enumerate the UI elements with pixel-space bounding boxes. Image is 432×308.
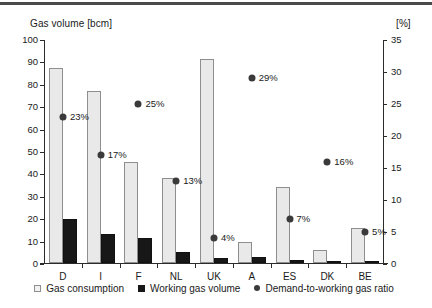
left-tick-label: 10 <box>27 237 38 247</box>
left-tick <box>40 174 44 175</box>
left-tick <box>40 85 44 86</box>
ratio-dot-nl <box>173 177 180 184</box>
bar-working-gas-volume-dk <box>327 261 341 263</box>
left-tick-label: 20 <box>27 214 38 224</box>
left-tick-label: 100 <box>22 35 38 45</box>
bar-gas-consumption-dk <box>313 250 327 263</box>
ratio-label-uk: 4% <box>221 233 235 243</box>
bar-gas-consumption-a <box>238 242 252 263</box>
legend-label: Demand-to-working gas ratio <box>265 283 393 294</box>
right-tick-label: 20 <box>391 131 402 141</box>
ratio-label-i: 17% <box>108 150 127 160</box>
light-square-icon <box>34 285 41 292</box>
right-tick-label: 30 <box>391 67 402 77</box>
right-tick-label: 35 <box>391 35 402 45</box>
left-tick <box>40 107 44 108</box>
ratio-label-d: 23% <box>70 112 89 122</box>
ratio-label-nl: 13% <box>183 176 202 186</box>
right-tick <box>383 40 387 41</box>
right-tick <box>383 72 387 73</box>
right-tick <box>383 264 387 265</box>
ratio-dot-i <box>97 152 104 159</box>
dot-icon <box>254 285 260 291</box>
category-separator-tick <box>233 263 234 268</box>
bar-gas-consumption-uk <box>200 59 214 263</box>
bar-working-gas-volume-f <box>138 238 152 263</box>
bar-gas-consumption-d <box>49 68 63 263</box>
category-separator-tick <box>82 263 83 268</box>
left-tick-label: 90 <box>27 57 38 67</box>
right-tick-label: 0 <box>391 259 396 269</box>
left-tick-label: 30 <box>27 192 38 202</box>
ratio-label-be: 5% <box>372 227 386 237</box>
left-axis-line <box>44 40 45 264</box>
ratio-dot-uk <box>211 235 218 242</box>
legend-item-0[interactable]: Gas consumption <box>34 283 124 294</box>
ratio-dot-es <box>286 216 293 223</box>
left-tick <box>40 197 44 198</box>
bar-working-gas-volume-i <box>101 234 115 263</box>
right-tick <box>383 104 387 105</box>
right-tick <box>383 136 387 137</box>
category-separator-tick <box>195 263 196 268</box>
bar-gas-consumption-f <box>124 162 138 263</box>
left-tick <box>40 264 44 265</box>
legend-item-2[interactable]: Demand-to-working gas ratio <box>254 283 393 294</box>
category-separator-tick <box>271 263 272 268</box>
ratio-dot-a <box>248 75 255 82</box>
left-tick-label: 50 <box>27 147 38 157</box>
bar-working-gas-volume-uk <box>214 258 228 263</box>
bar-working-gas-volume-nl <box>176 252 190 263</box>
left-tick <box>40 62 44 63</box>
dark-square-icon <box>138 285 145 292</box>
left-tick <box>40 130 44 131</box>
left-tick-label: 40 <box>27 169 38 179</box>
left-tick-label: 70 <box>27 102 38 112</box>
legend-label: Working gas volume <box>150 283 240 294</box>
right-tick <box>383 168 387 169</box>
right-tick-label: 25 <box>391 99 402 109</box>
bar-gas-consumption-es <box>276 187 290 263</box>
right-axis-title: [%] <box>396 18 411 29</box>
legend-label: Gas consumption <box>46 283 124 294</box>
category-separator-tick <box>120 263 121 268</box>
left-tick <box>40 152 44 153</box>
ratio-label-es: 7% <box>297 214 311 224</box>
left-tick-label: 60 <box>27 125 38 135</box>
right-tick-label: 15 <box>391 163 402 173</box>
left-tick <box>40 40 44 41</box>
bar-working-gas-volume-d <box>63 219 77 263</box>
chart-legend: Gas consumptionWorking gas volumeDemand-… <box>44 280 384 296</box>
x-axis-line <box>40 263 388 264</box>
right-tick-label: 5 <box>391 227 396 237</box>
category-separator-tick <box>157 263 158 268</box>
bar-working-gas-volume-a <box>252 257 266 263</box>
ratio-dot-be <box>362 229 369 236</box>
plot-area: 0102030405060708090100 05101520253035 DI… <box>44 40 384 264</box>
category-separator-tick <box>308 263 309 268</box>
ratio-label-a: 29% <box>259 73 278 83</box>
ratio-dot-f <box>135 101 142 108</box>
right-tick <box>383 200 387 201</box>
ratio-label-f: 25% <box>145 99 164 109</box>
left-tick <box>40 219 44 220</box>
ratio-dot-dk <box>324 158 331 165</box>
left-tick-label: 80 <box>27 80 38 90</box>
bar-working-gas-volume-be <box>365 261 379 263</box>
ratio-label-dk: 16% <box>334 157 353 167</box>
ratio-dot-d <box>59 113 66 120</box>
chart-figure: Gas volume [bcm] [%] 0102030405060708090… <box>0 0 432 308</box>
left-tick-label: 0 <box>33 259 38 269</box>
bar-working-gas-volume-es <box>290 260 304 263</box>
category-separator-tick <box>346 263 347 268</box>
legend-item-1[interactable]: Working gas volume <box>138 283 240 294</box>
bar-gas-consumption-nl <box>162 178 176 263</box>
right-tick-label: 10 <box>391 195 402 205</box>
left-tick <box>40 242 44 243</box>
left-axis-title: Gas volume [bcm] <box>30 18 112 29</box>
